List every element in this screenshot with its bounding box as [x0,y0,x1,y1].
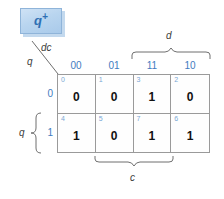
minterm-index-6: 6 [174,115,178,122]
kmap-cell-4[interactable]: 4 1 [58,114,96,153]
kmap-cell-5[interactable]: 5 0 [96,114,134,153]
grouping-bracket-d [131,41,211,61]
cell-value-5: 0 [111,130,118,142]
output-variable-superscript: + [42,10,48,21]
output-variable-base: q [34,13,42,28]
minterm-index-5: 5 [99,115,103,122]
grouping-bracket-c [94,155,174,173]
kmap-cell-6[interactable]: 6 1 [171,114,209,153]
minterm-index-1: 1 [99,76,103,83]
kmap-grid: 0 0 1 0 3 1 2 0 4 1 5 0 7 1 6 1 [57,74,210,153]
kmap-cell-1[interactable]: 1 0 [96,75,134,114]
column-header-01: 01 [95,61,133,71]
kmap-cell-0[interactable]: 0 0 [58,75,96,114]
kmap-cell-7[interactable]: 7 1 [134,114,172,153]
output-variable-label: q+ [34,14,48,27]
karnaugh-map-figure: q+ dc q 00 01 11 10 0 1 0 0 1 0 3 1 2 0 [0,0,224,199]
grouping-label-q: q [19,128,25,138]
row-header-0: 0 [42,89,53,99]
column-header-11: 11 [133,61,171,71]
minterm-index-4: 4 [61,115,65,122]
column-header-10: 10 [171,61,209,71]
minterm-index-2: 2 [174,76,178,83]
minterm-index-0: 0 [61,76,65,83]
output-variable-chip: q+ [20,8,62,34]
cell-value-6: 1 [187,130,194,142]
axis-label-rows: q [27,57,33,67]
axis-label-columns: dc [41,43,52,53]
kmap-cell-2[interactable]: 2 0 [171,75,209,114]
column-header-00: 00 [57,61,95,71]
minterm-index-3: 3 [137,76,141,83]
minterm-index-7: 7 [137,115,141,122]
grouping-label-d: d [166,31,172,41]
cell-value-2: 0 [187,91,194,103]
kmap-cell-3[interactable]: 3 1 [134,75,172,114]
cell-value-3: 1 [149,91,156,103]
cell-value-0: 0 [73,91,80,103]
cell-value-4: 1 [73,130,80,142]
cell-value-7: 1 [149,130,156,142]
cell-value-1: 0 [111,91,118,103]
grouping-label-c: c [130,173,135,183]
